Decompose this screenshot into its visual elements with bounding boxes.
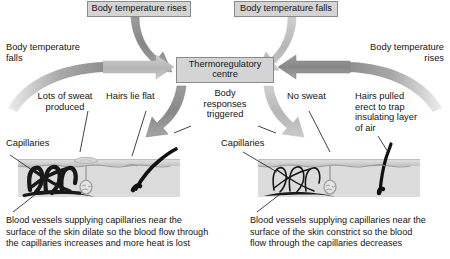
box-body-temperature-rises-label: Body temperature rises <box>92 4 187 14</box>
label-hairs-lie-flat: Hairs lie flat <box>106 91 176 102</box>
label-right-body-temperature-rises: Body temperature rises <box>344 42 444 63</box>
box-body-temperature-falls[interactable]: Body temperature falls <box>234 1 338 17</box>
skin-diagram-left <box>18 149 180 197</box>
label-capillaries-left: Capillaries <box>6 138 68 149</box>
label-body-responses-triggered: Body responses triggered <box>192 88 258 120</box>
label-hairs-pulled-erect: Hairs pulled erect to trap insulating la… <box>355 91 433 133</box>
box-body-temperature-falls-label: Body temperature falls <box>240 4 332 14</box>
skin-diagram-right <box>258 144 420 197</box>
leader-lines-responses <box>174 126 276 133</box>
arrow-right-to-centre <box>278 55 350 79</box>
caption-vasoconstriction: Blood vessels supplying capillaries near… <box>250 215 450 250</box>
label-lots-of-sweat-produced: Lots of sweat produced <box>24 91 106 112</box>
caption-vasodilation: Blood vessels supplying capillaries near… <box>6 215 228 250</box>
box-body-temperature-rises[interactable]: Body temperature rises <box>87 1 191 17</box>
box-thermoregulatory-centre[interactable]: Thermoregulatory centre <box>176 57 274 83</box>
label-capillaries-right: Capillaries <box>221 138 283 149</box>
label-left-body-temperature-falls: Body temperature falls <box>6 42 106 63</box>
box-thermoregulatory-centre-label: Thermoregulatory centre <box>189 60 262 80</box>
thermoregulation-diagram: Body temperature rises Body temperature … <box>0 0 450 259</box>
label-no-sweat: No sweat <box>287 91 343 102</box>
